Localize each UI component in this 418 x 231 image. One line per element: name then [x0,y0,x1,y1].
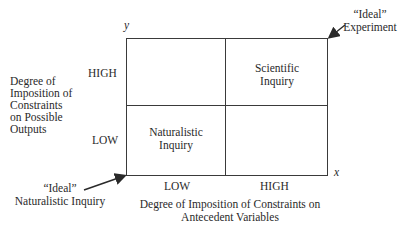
x-tick-high: HIGH [260,180,289,193]
x-axis-letter: x [334,166,339,179]
annotation-ideal-naturalistic-inquiry: “Ideal” Naturalistic Inquiry [6,182,114,208]
x-tick-low: LOW [164,180,190,193]
x-axis-title: Degree of Imposition of Constraints on A… [127,198,333,224]
y-tick-low: LOW [92,134,118,147]
annotation-ideal-experiment: “Ideal” Experiment [335,8,405,34]
y-axis-letter: y [124,19,129,32]
y-tick-high: HIGH [88,67,117,80]
quadrant-naturalistic-inquiry: Naturalistic Inquiry [126,126,226,152]
quadrant-scientific-inquiry: Scientific Inquiry [226,62,328,88]
